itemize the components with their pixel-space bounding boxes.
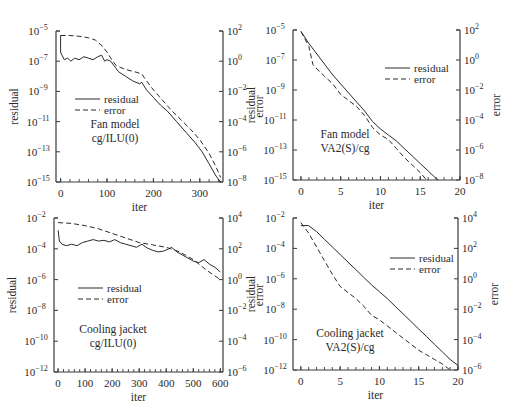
y-tick-label-left: 10−5 — [265, 22, 285, 36]
y-tick-label-left: 10−15 — [26, 174, 50, 188]
legend-label-error: error — [419, 263, 441, 275]
y-tick-label-right: 10−2 — [462, 301, 482, 315]
y-tick-label-left: 10−6 — [265, 271, 285, 285]
y-tick-label-right: 10−6 — [462, 362, 482, 376]
series-residual — [301, 32, 439, 181]
x-tick-label: 400 — [158, 377, 175, 389]
figure: 10−510−710−910−1110−1310−1510210010−210−… — [0, 0, 511, 416]
y-tick-label-right: 102 — [227, 23, 242, 37]
y-tick-label-right: 10−4 — [227, 114, 247, 128]
x-tick-label: 5 — [338, 185, 344, 197]
y-axis-label-left: residual — [8, 88, 20, 124]
y-tick-label-right: 104 — [227, 210, 242, 224]
y-tick-label-left: 10−6 — [26, 272, 46, 286]
y-tick-label-right: 10−8 — [227, 174, 247, 188]
y-tick-label-left: 10−11 — [263, 112, 286, 126]
y-tick-label-right: 10−4 — [464, 112, 484, 126]
chart-annotation: VA2(S)/cg — [326, 341, 375, 354]
chart-annotation: Cooling jacket — [79, 323, 147, 336]
x-tick-label: 15 — [413, 375, 425, 387]
chart-panel-fan-va2: 10−510−710−910−1110−1310−1510210010−210−… — [245, 22, 502, 211]
y-tick-label-right: 102 — [464, 22, 479, 36]
x-axis-label: iter — [131, 391, 146, 403]
y-tick-label-left: 10−2 — [26, 210, 46, 224]
y-tick-label-right: 10−6 — [464, 142, 484, 156]
y-tick-label-left: 10−7 — [265, 52, 285, 66]
chart-panel-jacket-va2: 10−210−410−610−810−1010−1210410210010−21… — [245, 210, 500, 401]
y-tick-label-right: 10−6 — [227, 144, 247, 158]
x-tick-label: 200 — [104, 377, 121, 389]
chart-annotation: cg/ILU(0) — [92, 132, 139, 145]
x-axis-label: iter — [132, 201, 147, 213]
y-tick-label-right: 102 — [227, 241, 242, 255]
x-tick-label: 500 — [185, 377, 202, 389]
legend: residualerror — [390, 252, 454, 275]
x-tick-label: 300 — [192, 187, 209, 199]
x-tick-label: 100 — [99, 187, 116, 199]
x-tick-label: 10 — [375, 185, 387, 197]
chart-annotation: VA2(S)/cg — [321, 142, 370, 155]
y-tick-label-left: 10−2 — [265, 210, 285, 224]
legend: residualerror — [75, 93, 139, 116]
y-tick-label-right: 100 — [462, 271, 477, 285]
chart-panel-jacket-ilu: 10−210−410−610−810−1010−1210410210010−21… — [6, 210, 265, 403]
y-axis-label-left: residual — [6, 277, 18, 313]
y-tick-label-right: 10−4 — [227, 333, 247, 347]
series-error — [58, 223, 220, 280]
y-tick-label-left: 10−12 — [263, 362, 287, 376]
y-tick-label-right: 100 — [227, 272, 242, 286]
y-tick-label-right: 10−2 — [227, 83, 247, 97]
x-tick-label: 200 — [145, 187, 162, 199]
series-error — [301, 32, 427, 181]
y-tick-label-left: 10−7 — [28, 53, 48, 67]
x-axis-label: iter — [369, 199, 384, 211]
y-tick-label-right: 100 — [227, 53, 242, 67]
y-tick-label-right: 104 — [462, 210, 477, 224]
x-tick-label: 0 — [58, 187, 64, 199]
y-tick-label-left: 10−9 — [28, 83, 48, 97]
y-tick-label-left: 10−8 — [26, 302, 46, 316]
y-tick-label-right: 10−2 — [464, 82, 484, 96]
chart-annotation: Fan model — [91, 118, 140, 130]
x-tick-label: 300 — [131, 377, 148, 389]
y-tick-label-left: 10−10 — [24, 333, 48, 347]
y-axis-label-left: residual — [245, 276, 257, 312]
y-tick-label-right: 10−4 — [462, 332, 482, 346]
chart-panel-fan-ilu: 10−510−710−910−1110−1310−1510210010−210−… — [8, 23, 265, 213]
legend: residualerror — [78, 282, 142, 305]
y-axis-label-right: error — [488, 283, 500, 306]
y-axis-label-right: error — [490, 94, 502, 117]
series-residual — [301, 226, 458, 366]
x-tick-label: 0 — [298, 375, 304, 387]
y-tick-label-right: 10−6 — [227, 364, 247, 378]
series-residual — [58, 230, 220, 272]
y-tick-label-left: 10−15 — [263, 172, 287, 186]
x-tick-label: 20 — [455, 185, 467, 197]
legend-label-error: error — [107, 293, 129, 305]
y-tick-label-left: 10−12 — [24, 364, 48, 378]
legend-label-error: error — [414, 73, 436, 85]
x-tick-label: 15 — [415, 185, 427, 197]
y-tick-label-left: 10−4 — [26, 241, 46, 255]
y-tick-label-right: 100 — [464, 52, 479, 66]
y-tick-label-right: 10−2 — [227, 302, 247, 316]
series-error — [301, 223, 450, 370]
series-residual — [60, 36, 221, 183]
chart-annotation: cg/ILU(0) — [90, 337, 137, 350]
y-tick-label-left: 10−13 — [26, 144, 50, 158]
x-tick-label: 10 — [374, 375, 386, 387]
x-tick-label: 100 — [77, 377, 94, 389]
figure-canvas: 10−510−710−910−1110−1310−1510210010−210−… — [0, 0, 511, 416]
y-tick-label-left: 10−10 — [263, 332, 287, 346]
y-tick-label-left: 10−8 — [265, 301, 285, 315]
x-tick-label: 0 — [298, 185, 304, 197]
legend: residualerror — [385, 62, 449, 85]
y-tick-label-left: 10−11 — [26, 114, 49, 128]
y-axis-label-left: residual — [245, 87, 257, 123]
x-tick-label: 600 — [212, 377, 229, 389]
y-tick-label-right: 102 — [462, 240, 477, 254]
y-tick-label-left: 10−13 — [263, 142, 287, 156]
x-tick-label: 5 — [337, 375, 343, 387]
x-tick-label: 20 — [453, 375, 465, 387]
y-tick-label-left: 10−5 — [28, 23, 48, 37]
